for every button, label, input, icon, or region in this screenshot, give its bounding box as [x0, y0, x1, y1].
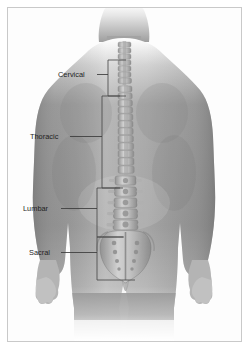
label-lumbar: Lumbar	[23, 204, 49, 213]
label-cervical: Cervical	[58, 70, 85, 79]
figure-stage: Cervical Thoracic Lumbar Sacral	[8, 8, 241, 341]
scapula-right-shade	[136, 83, 188, 143]
scapula-left-shade	[60, 83, 112, 143]
label-sacral: Sacral	[29, 248, 50, 257]
anatomy-illustration: Cervical Thoracic Lumbar Sacral	[8, 8, 241, 341]
legs-whiteout	[8, 320, 241, 341]
label-thoracic: Thoracic	[30, 132, 59, 141]
figure-frame: Cervical Thoracic Lumbar Sacral	[0, 0, 249, 349]
thoracic-vertebrae	[118, 85, 134, 175]
